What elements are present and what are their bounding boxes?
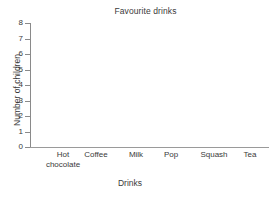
- y-tick-1: [25, 132, 30, 133]
- y-tick-label-5: 5: [12, 66, 23, 74]
- y-tick-2: [25, 116, 30, 117]
- x-tick-label-milk: Milk: [118, 150, 154, 160]
- x-tick-label-squash: Squash: [192, 150, 236, 160]
- y-tick-5: [25, 70, 30, 71]
- y-tick-label-3: 3: [12, 97, 23, 105]
- y-tick-7: [25, 39, 30, 40]
- y-tick-0: [25, 147, 30, 148]
- chart-title: Favourite drinks: [0, 6, 269, 16]
- chart-screenshot: Favourite drinks Number of children 8 7 …: [0, 0, 269, 198]
- y-tick-3: [25, 101, 30, 102]
- plot-area: [31, 23, 269, 147]
- x-axis-label: Drinks: [30, 178, 230, 188]
- y-tick-8: [25, 23, 30, 24]
- y-tick-4: [25, 85, 30, 86]
- x-axis-line: [30, 147, 269, 148]
- y-tick-label-2: 2: [12, 112, 23, 120]
- y-tick-label-6: 6: [12, 50, 23, 58]
- y-tick-6: [25, 54, 30, 55]
- y-tick-label-0: 0: [12, 143, 23, 151]
- y-tick-label-8: 8: [12, 19, 23, 27]
- y-tick-label-4: 4: [12, 81, 23, 89]
- x-tick-label-pop: Pop: [155, 150, 187, 160]
- y-tick-label-1: 1: [12, 128, 23, 136]
- x-tick-label-tea: Tea: [236, 150, 264, 160]
- x-tick-label-coffee: Coffee: [76, 150, 116, 160]
- y-tick-label-7: 7: [12, 35, 23, 43]
